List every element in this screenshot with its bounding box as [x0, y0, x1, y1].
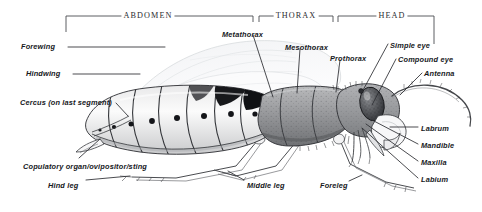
- leader-line-foreleg: [349, 175, 362, 181]
- labium-shape: [352, 132, 354, 162]
- label-forewing: Forewing: [21, 43, 55, 50]
- label-foreleg: Foreleg: [320, 182, 348, 189]
- abdomen-shape: [86, 84, 280, 158]
- region-label-abdomen: ABDOMEN: [121, 12, 174, 20]
- label-prothorax: Prothorax: [330, 55, 366, 62]
- label-metathorax: Metathorax: [222, 31, 263, 38]
- label-mandible: Mandible: [421, 142, 454, 149]
- label-middleleg: Middle leg: [247, 182, 285, 189]
- antenna-shape: [392, 79, 471, 126]
- label-mesothorax: Mesothorax: [285, 44, 328, 51]
- label-antenna: Antenna: [424, 70, 455, 77]
- label-copulatory: Copulatory organ/ovipositor/sting: [23, 163, 147, 170]
- label-hindwing: Hindwing: [26, 70, 60, 77]
- label-labrum: Labrum: [421, 125, 449, 132]
- region-label-head: HEAD: [376, 12, 407, 20]
- label-labium: Labium: [421, 176, 448, 183]
- leader-line-antenna: [400, 73, 422, 95]
- label-maxilla: Maxilla: [421, 159, 447, 166]
- ovipositor-shape: [76, 139, 104, 153]
- label-compound-eye: Compound eye: [398, 56, 453, 63]
- label-simple-eye: Simple eye: [390, 42, 430, 49]
- label-hindleg: Hind leg: [48, 182, 78, 189]
- insect-anatomy-figure: ABDOMENTHORAXHEAD ForewingHindwingCercus…: [0, 0, 482, 212]
- region-label-thorax: THORAX: [274, 12, 319, 20]
- label-cercus: Cercus (on last segment): [20, 99, 112, 106]
